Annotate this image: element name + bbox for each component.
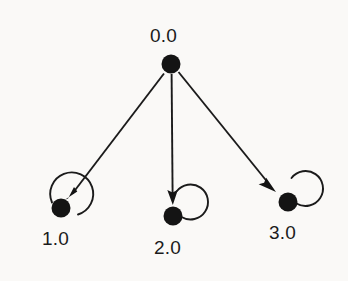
node-dot-1[interactable] [52,199,71,218]
node-label-1: 1.0 [42,229,69,248]
node-dot-3[interactable] [279,193,298,212]
edge-root-to-1 [65,74,165,201]
edge-root-to-2 [167,74,178,205]
edge-group [65,72,277,205]
node-dot-0[interactable] [162,55,181,74]
edge-root-to-3-arrowhead [259,178,276,192]
edge-root-to-1-arrowhead [65,187,78,200]
node-label-2: 2.0 [154,238,181,257]
node-dot-2[interactable] [164,207,183,226]
edge-root-to-2-line [172,74,173,194]
edge-root-to-1-line [73,74,165,194]
node-label-3: 3.0 [269,223,296,242]
node-label-0: 0.0 [150,26,177,45]
edge-root-to-3-line [179,72,268,182]
diagram-canvas: 0.0 1.0 2.0 3.0 [0,0,348,281]
edge-root-to-3 [179,72,277,192]
